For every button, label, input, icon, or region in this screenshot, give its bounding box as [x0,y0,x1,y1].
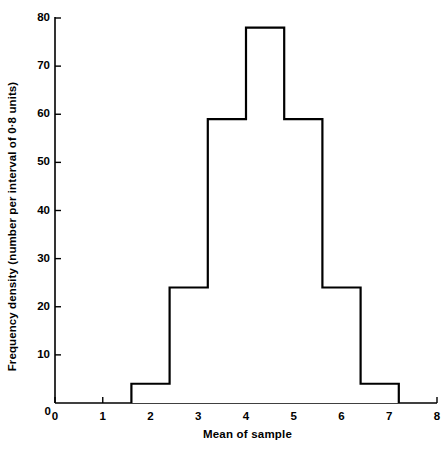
x-tick-label: 4 [236,411,256,423]
x-tick-label: 6 [332,411,352,423]
y-tick-label: 30 [24,253,50,265]
x-tick-label: 7 [379,411,399,423]
y-tick-label: 70 [24,60,50,72]
x-tick-label: 3 [188,411,208,423]
x-tick-label: 2 [141,411,161,423]
plot-canvas [0,0,446,453]
y-tick-label: 40 [24,205,50,217]
x-tick-label: 1 [93,411,113,423]
y-tick-label: 50 [24,156,50,168]
y-tick-label: 10 [24,349,50,361]
y-tick-label: 80 [24,12,50,24]
histogram-bars [131,28,398,403]
histogram-figure: Frequency density (number per interval o… [0,0,446,453]
histogram-outline [131,28,398,403]
x-tick-label: 8 [427,411,446,423]
y-tick-label: 20 [24,301,50,313]
x-tick-label: 0 [45,411,65,423]
x-tick-label: 5 [284,411,304,423]
y-tick-label: 60 [24,108,50,120]
